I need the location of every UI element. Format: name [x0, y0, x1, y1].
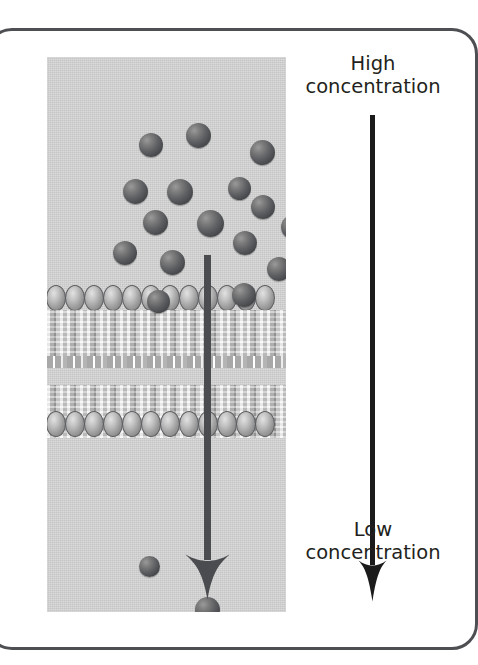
cell-illustration-panel — [47, 57, 286, 612]
low-concentration-line2: concentration — [305, 541, 440, 564]
phospholipid-head — [84, 411, 104, 437]
phospholipid-head — [47, 411, 66, 437]
solute-molecule-outside — [123, 179, 148, 204]
phospholipid-head — [179, 411, 199, 437]
phospholipid-head-row-inner — [47, 411, 286, 437]
solute-molecule-inside — [139, 556, 160, 577]
high-concentration-label: High concentration — [290, 52, 456, 98]
high-concentration-line1: High — [351, 52, 396, 75]
phospholipid-head — [217, 411, 237, 437]
diffusion-arrow-shaft — [204, 255, 211, 560]
phospholipid-head — [65, 285, 85, 311]
solute-molecule-outside — [139, 133, 163, 157]
gradient-arrow-shaft — [370, 115, 375, 565]
concentration-gradient-axis: High concentration Low concentration — [290, 52, 467, 612]
solute-molecule-outside — [251, 195, 275, 219]
phospholipid-head — [179, 285, 199, 311]
phospholipid-head — [141, 411, 161, 437]
solute-molecule-outside — [167, 179, 193, 205]
solute-molecule-outside — [228, 177, 251, 200]
phospholipid-head — [47, 285, 66, 311]
solute-molecule-outside — [267, 257, 286, 281]
solute-molecule-outside — [160, 250, 185, 275]
solute-molecule-outside — [232, 283, 256, 307]
solute-molecule-outside — [281, 215, 286, 239]
solute-molecule-outside — [186, 123, 211, 148]
phospholipid-head — [122, 285, 142, 311]
solute-molecule-outside — [143, 210, 168, 235]
phospholipid-head — [65, 411, 85, 437]
high-concentration-line2: concentration — [305, 75, 440, 98]
bilayer-midline-seam — [47, 356, 286, 368]
solute-molecule-outside — [233, 231, 257, 255]
phospholipid-head — [103, 285, 123, 311]
phospholipid-head — [103, 411, 123, 437]
low-concentration-label: Low concentration — [290, 518, 456, 564]
solute-molecule-outside — [147, 290, 170, 313]
gradient-arrow-head — [358, 560, 387, 602]
phospholipid-head — [236, 411, 256, 437]
phospholipid-head — [255, 411, 275, 437]
solute-molecule-outside — [113, 241, 137, 265]
phospholipid-head — [160, 411, 180, 437]
diffusion-arrow-head — [185, 554, 230, 600]
phospholipid-head — [122, 411, 142, 437]
solute-molecule-outside — [197, 210, 224, 237]
solute-molecule-outside — [250, 140, 275, 165]
low-concentration-line1: Low — [354, 518, 392, 541]
phospholipid-head — [84, 285, 104, 311]
phospholipid-head — [255, 285, 275, 311]
